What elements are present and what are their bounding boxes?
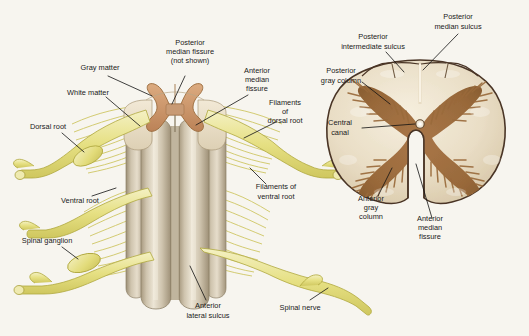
label-line: (not shown)	[171, 56, 210, 65]
dorsal-root-cut-end	[15, 171, 25, 180]
label-line: canal	[331, 128, 349, 137]
label-line: Anterior	[417, 214, 443, 223]
label-line: fissure	[419, 232, 441, 241]
figure-canvas: Gray matterPosteriormedian fissure(not s…	[0, 0, 529, 336]
label-line: median fissure	[166, 47, 214, 56]
spinal-nerve-left-cut-end	[14, 286, 24, 295]
label-central-canal: Centralcanal	[328, 118, 352, 136]
label-ventral-root: Ventral root	[61, 196, 99, 205]
label-line: Posterior	[358, 32, 388, 41]
label-line: median	[418, 223, 442, 232]
label-posterior-gray-column: Posteriorgray column	[321, 66, 361, 84]
label-line: Spinal nerve	[279, 303, 320, 312]
label-spinal-nerve: Spinal nerve	[279, 303, 320, 312]
label-dorsal-root: Dorsal root	[30, 122, 66, 131]
label-line: White matter	[67, 88, 109, 97]
label-filaments-of-ventral-root: Filaments ofventral root	[256, 182, 297, 200]
label-line: Filaments of	[256, 182, 297, 191]
label-line: fissure	[246, 84, 268, 93]
label-line: Posterior	[443, 12, 473, 21]
label-line: Central	[328, 118, 352, 127]
label-line: of	[282, 107, 289, 116]
label-anterior-median-fissure: Anteriormedianfissure	[417, 214, 443, 241]
label-line: dorsal root	[268, 116, 303, 125]
label-line: Gray matter	[80, 63, 120, 72]
label-line: gray column	[321, 76, 361, 85]
label-line: Ventral root	[61, 196, 99, 205]
label-line: lateral sulcus	[186, 311, 229, 320]
label-line: Filaments	[269, 98, 301, 107]
label-line: Dorsal root	[30, 122, 66, 131]
label-line: ventral root	[258, 192, 295, 201]
label-spinal-ganglion: Spinal ganglion	[22, 236, 73, 245]
label-anterior-median-fissure: Anteriormedianfissure	[244, 66, 270, 93]
label-line: Posterior	[326, 66, 356, 75]
anterior-median-fissure-shadow	[171, 126, 179, 300]
label-line: median	[245, 75, 269, 84]
label-line: Posterior	[175, 38, 205, 47]
label-line: Anterior	[244, 66, 270, 75]
spinal-cord-illustration: Gray matterPosteriormedian fissure(not s…	[0, 0, 529, 336]
label-line: Anterior	[358, 194, 384, 203]
label-gray-matter: Gray matter	[80, 63, 120, 72]
label-line: intermediate sulcus	[341, 42, 405, 51]
central-canal-lumen	[418, 122, 422, 126]
label-line: gray	[364, 203, 379, 212]
label-line: Spinal ganglion	[22, 236, 73, 245]
label-line: column	[359, 212, 383, 221]
gray-commissure	[166, 104, 184, 115]
label-line: median sulcus	[434, 22, 482, 31]
label-line: Anterior	[195, 301, 221, 310]
label-white-matter: White matter	[67, 88, 109, 97]
